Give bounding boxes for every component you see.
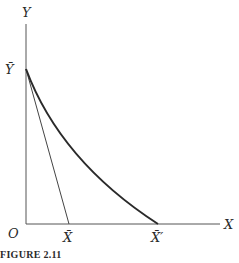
budget-line-straight <box>26 69 69 224</box>
origin-label: O <box>8 226 19 241</box>
x-bar-prime-label: X̄′ <box>150 230 163 245</box>
budget-curve-convex <box>26 69 158 224</box>
y-bar-label: Ȳ <box>5 62 15 77</box>
figure-canvas: Y Ȳ O X̄ X̄′ X FIGURE 2.11 <box>0 0 239 263</box>
x-bar-label: X̄ <box>62 230 73 245</box>
y-axis-label: Y <box>22 5 32 20</box>
figure-caption: FIGURE 2.11 <box>0 249 62 260</box>
x-axis-label: X <box>223 217 234 232</box>
